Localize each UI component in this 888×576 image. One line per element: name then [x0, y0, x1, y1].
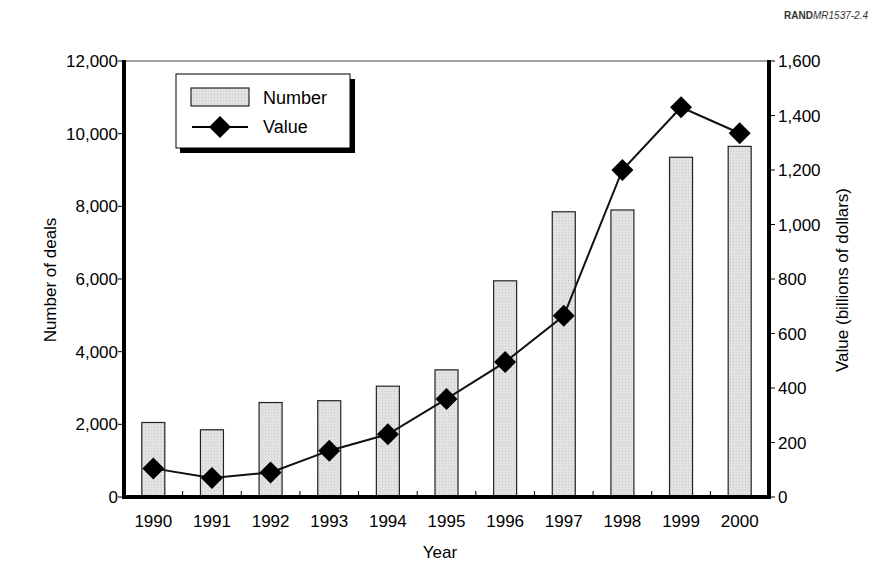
bar-1997	[552, 212, 575, 497]
y-tick-label: 10,000	[66, 125, 118, 144]
y-tick-label: 6,000	[75, 270, 118, 289]
x-tick-label: 1999	[662, 512, 700, 531]
chart: RANDMR1537-2.4 02,0004,0006,0008,00010,0…	[0, 0, 888, 576]
y-tick-label: 0	[109, 488, 118, 507]
credit-org: RAND	[784, 10, 813, 21]
credit-doc-id: MR1537-2.4	[813, 10, 868, 21]
bar-1998	[611, 210, 634, 497]
y2-axis-title: Value (billions of dollars)	[833, 188, 852, 372]
x-tick-label: 1997	[545, 512, 583, 531]
x-tick-label: 1993	[310, 512, 348, 531]
diamond-marker-2000	[729, 122, 751, 144]
y2-tick-label: 1,400	[778, 107, 821, 126]
x-tick-label: 1991	[193, 512, 231, 531]
x-tick-label: 2000	[721, 512, 759, 531]
x-tick-label: 1992	[252, 512, 290, 531]
y2-tick-label: 1,000	[778, 216, 821, 235]
y2-tick-label: 600	[778, 325, 806, 344]
bar-2000	[728, 146, 751, 497]
x-tick-label: 1995	[428, 512, 466, 531]
y2-tick-label: 200	[778, 434, 806, 453]
y2-tick-label: 800	[778, 270, 806, 289]
chart-svg: 02,0004,0006,0008,00010,00012,0000200400…	[0, 0, 888, 576]
y-axis-title: Number of deals	[41, 218, 60, 343]
bar-1996	[494, 281, 517, 497]
x-axis-title: Year	[423, 543, 458, 562]
x-tick-label: 1990	[134, 512, 172, 531]
y-tick-label: 12,000	[66, 52, 118, 71]
y-tick-label: 4,000	[75, 343, 118, 362]
x-tick-label: 1998	[603, 512, 641, 531]
legend-bar-swatch	[191, 88, 249, 106]
bar-1999	[670, 157, 693, 497]
y2-tick-label: 400	[778, 379, 806, 398]
y2-tick-label: 0	[778, 488, 787, 507]
y-tick-label: 8,000	[75, 197, 118, 216]
x-tick-label: 1996	[486, 512, 524, 531]
y-tick-label: 2,000	[75, 415, 118, 434]
y2-tick-label: 1,200	[778, 161, 821, 180]
figure-credit: RANDMR1537-2.4	[784, 10, 868, 21]
legend-label-value: Value	[263, 117, 308, 137]
legend-label-number: Number	[263, 88, 327, 108]
y2-tick-label: 1,600	[778, 52, 821, 71]
x-tick-label: 1994	[369, 512, 407, 531]
